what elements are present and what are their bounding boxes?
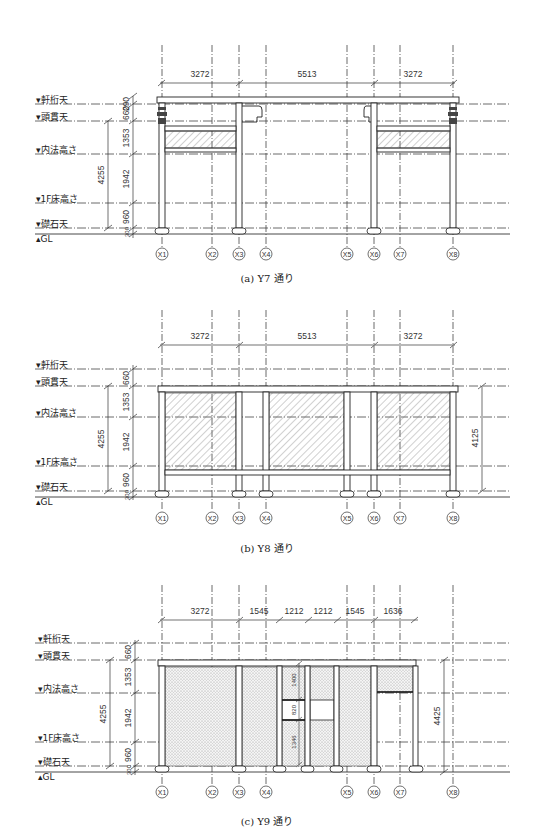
dim-3272-left: 3272 [191,69,210,79]
axis-label-x4: X4 [262,251,271,258]
level-soseki: ▾礎石天 [36,481,68,492]
dim-1942: 1942 [121,432,131,451]
axis-label-x2: X2 [208,251,217,258]
level-kashiranuki: ▾頭貫天 [38,651,70,661]
dim-4255: 4255 [96,429,106,448]
level-kashiranuki: ▾頭貫天 [36,112,68,122]
top-dimension-line [158,80,457,86]
axis-label-x2: X2 [208,515,217,522]
axis-label-x5: X5 [343,515,352,522]
level-gl: ▴GL [36,234,53,244]
dim-3272-right: 3272 [404,69,423,79]
axis-bubbles [156,248,459,260]
dim-1942: 1942 [123,708,133,727]
level-uchinori: ▾内法高さ [38,683,79,694]
level-uchinori: ▾内法高さ [36,144,77,155]
dim-960: 960 [123,748,133,762]
dim-660: 660 [123,645,133,659]
axis-label-x1: X1 [158,789,167,796]
dim-1353: 1353 [121,128,131,147]
dim-4255: 4255 [98,704,108,723]
axis-label-x6: X6 [370,251,379,258]
dim-1545-right: 1545 [346,606,365,616]
dim-820: 820 [291,704,297,715]
dim-1545-left: 1545 [250,606,269,616]
dim-300: 300 [124,489,130,500]
level-nokiketa: ▾軒桁天 [36,359,68,370]
level-kashiranuki: ▾頭貫天 [36,377,68,387]
axis-label-x7: X7 [396,515,405,522]
axis-label-x8: X8 [449,515,458,522]
hatched-wall-2 [269,393,344,470]
panel-a-y7-elevation: 3272 5513 3272 [35,45,510,284]
axis-label-x3: X3 [235,789,244,796]
dim-1353: 1353 [121,392,131,411]
dim-3272: 3272 [191,606,210,616]
level-nokiketa: ▾軒桁天 [36,94,68,105]
hatched-panel-right [377,131,450,148]
axis-label-x5: X5 [343,251,352,258]
dim-300: 300 [124,226,130,237]
level-soseki: ▾礎石天 [38,756,70,767]
dim-300: 300 [126,764,132,775]
axis-label-x6: X6 [370,515,379,522]
level-uchinori: ▾内法高さ [36,407,77,418]
axis-label-x1: X1 [158,251,167,258]
dim-3272-right: 3272 [404,331,423,341]
axis-label-x5: X5 [343,789,352,796]
caption-y7: (a) Y7 通り [240,273,293,284]
dim-3272-left: 3272 [191,331,210,341]
dim-660: 660 [121,371,131,385]
dotted-wall-1 [165,667,236,766]
bracket-ornaments [157,107,458,124]
dim-1212-right: 1212 [314,606,333,616]
hatched-wall-1 [165,393,236,470]
axis-label-x3: X3 [235,515,244,522]
level-soseki: ▾礎石天 [36,218,68,229]
hatched-panel-left [165,131,236,148]
level-gl: ▴GL [36,497,53,507]
dim-4425: 4425 [432,706,442,725]
dim-1400: 1400 [291,673,297,687]
frame-structure [157,97,459,228]
level-1f-floor: ▾1F床高さ [36,193,78,204]
dotted-transom [377,667,413,692]
level-nokiketa: ▾軒桁天 [38,633,70,644]
axis-label-x4: X4 [262,515,271,522]
dim-5513: 5513 [298,69,317,79]
dim-1942: 1942 [121,169,131,188]
dim-4125: 4125 [470,428,480,447]
dim-1346: 1346 [291,735,297,749]
level-1f-floor: ▾1F床高さ [38,732,80,743]
foundation-stones [155,228,460,234]
axis-label-x8: X8 [449,251,458,258]
caption-y8: (b) Y8 通り [240,543,294,554]
dotted-wall-2 [242,667,277,766]
dim-1353: 1353 [123,667,133,686]
dim-1212-left: 1212 [285,606,304,616]
axis-label-x4: X4 [262,789,271,796]
caption-y9: (c) Y9 通り [241,816,294,827]
dotted-wall-5 [339,667,371,766]
panel-c-y9-elevation: 3272 1545 1212 1212 1545 1636 [35,585,510,827]
dim-960: 960 [121,210,131,224]
axis-label-x3: X3 [235,251,244,258]
elevation-drawings: 3272 5513 3272 [0,0,535,830]
axis-label-x2: X2 [208,789,217,796]
axis-label-x7: X7 [396,251,405,258]
level-labels: ▾軒桁天 ▾頭貫天 ▾内法高さ ▾1F床高さ ▾礎石天 ▴GL [36,94,78,244]
axis-label-x7: X7 [396,789,405,796]
panel-b-y8-elevation: 3272 5513 3272 4125 [35,310,510,554]
level-1f-floor: ▾1F床高さ [36,456,78,467]
hatched-wall-3 [377,393,450,470]
dim-1636: 1636 [384,606,403,616]
axis-label-x6: X6 [370,789,379,796]
axis-label-x8: X8 [449,789,458,796]
dim-960: 960 [121,473,131,487]
axis-label-x1: X1 [158,515,167,522]
dim-4255: 4255 [96,165,106,184]
dim-660: 660 [121,106,131,120]
dim-5513: 5513 [298,331,317,341]
level-gl: ▴GL [38,772,55,782]
